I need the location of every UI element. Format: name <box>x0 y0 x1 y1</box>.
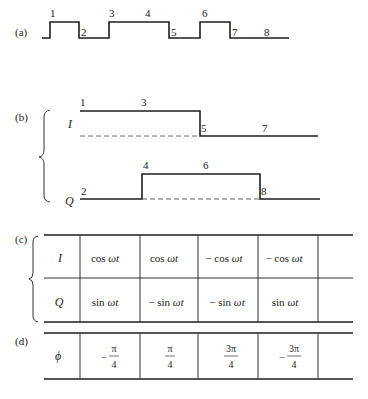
phase-cell: 3π 4 <box>224 343 238 370</box>
i-channel-label: I <box>67 117 73 131</box>
table-cell: − sin ωt <box>209 296 245 308</box>
fraction-numerator: π <box>111 343 116 354</box>
bit-label: 6 <box>202 7 208 19</box>
fraction-numerator: 3π <box>226 343 236 354</box>
bit-label: 6 <box>203 159 209 171</box>
bit-label: 4 <box>143 159 149 171</box>
phase-cell: − π 4 <box>101 343 119 370</box>
table-cell: cos ωt <box>91 252 120 264</box>
panel-d-label: (d) <box>15 335 28 348</box>
bit-label: 5 <box>171 26 177 38</box>
brace-icon <box>29 236 38 322</box>
bit-label: 2 <box>81 185 87 197</box>
bit-label: 4 <box>145 7 151 19</box>
fraction-denominator: 4 <box>112 359 117 370</box>
panel-a: (a) 1 2 3 4 5 6 7 8 <box>15 7 289 39</box>
q-waveform <box>80 174 320 199</box>
panel-d: (d) ϕ − π 4 π 4 3π 4 <box>15 333 353 379</box>
bit-label: 8 <box>264 26 270 38</box>
panel-b-label: (b) <box>15 111 28 124</box>
panel-b: (b) I 1 3 5 7 Q 2 4 6 8 <box>15 96 320 208</box>
brace-icon <box>39 110 50 202</box>
bit-label: 7 <box>232 26 238 38</box>
q-channel-label: Q <box>65 194 74 208</box>
panel-a-label: (a) <box>15 26 28 39</box>
table-cell: − sin ωt <box>148 296 184 308</box>
fraction-sign: − <box>279 352 285 363</box>
fraction-sign: − <box>101 352 107 363</box>
bit-label: 3 <box>109 7 115 19</box>
row-label-q: Q <box>55 295 64 309</box>
bit-label: 7 <box>262 122 268 134</box>
table-cell: cos ωt <box>150 252 179 264</box>
fraction-denominator: 4 <box>229 359 234 370</box>
table-cell: sin ωt <box>92 296 119 308</box>
qpsk-diagram: (a) 1 2 3 4 5 6 7 8 (b) I 1 3 5 7 Q 2 4 … <box>0 0 368 399</box>
table-cell: − cos ωt <box>205 252 243 264</box>
bit-label: 5 <box>201 122 207 134</box>
bit-label: 3 <box>141 96 147 108</box>
fraction-denominator: 4 <box>292 359 297 370</box>
fraction-numerator: 3π <box>289 343 299 354</box>
phase-cell: − 3π 4 <box>279 343 301 370</box>
table-cell: − cos ωt <box>265 252 303 264</box>
row-label-phi: ϕ <box>55 349 61 363</box>
i-waveform <box>80 111 318 136</box>
bit-label: 8 <box>261 185 267 197</box>
table-cell: sin ωt <box>272 296 299 308</box>
fraction-denominator: 4 <box>168 359 173 370</box>
row-label-i: I <box>57 251 63 265</box>
phase-cell: π 4 <box>165 343 175 370</box>
bit-label: 1 <box>80 96 86 108</box>
bit-label: 2 <box>81 26 87 38</box>
bit-label: 1 <box>50 7 56 19</box>
bitstream-waveform <box>42 22 289 38</box>
panel-c: (c) I cos ωt cos ωt − cos ωt − cos ωt Q … <box>15 233 353 322</box>
fraction-numerator: π <box>167 343 172 354</box>
panel-c-label: (c) <box>15 233 28 246</box>
